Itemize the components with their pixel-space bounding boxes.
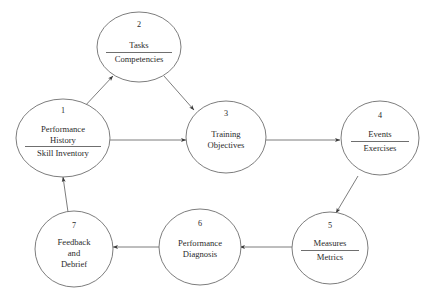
node-5-label-line-1: Measures — [314, 238, 348, 248]
node-7-index: 7 — [72, 221, 76, 230]
node-2-label-line-1: Tasks — [129, 40, 149, 50]
process-flow-diagram: 1 Performance History Skill Inventory 2 … — [0, 0, 436, 296]
node-1[interactable]: 1 Performance History Skill Inventory — [16, 99, 110, 177]
node-6-label-line-2: Diagnosis — [183, 249, 218, 259]
node-4-label-line-1: Events — [368, 129, 392, 139]
node-5[interactable]: 5 Measures Metrics — [292, 212, 368, 284]
edge-1-to-2 — [83, 76, 113, 108]
node-5-index: 5 — [328, 221, 332, 230]
node-7-label-line-3: Debrief — [61, 259, 87, 269]
node-4-label-line-2: Exercises — [364, 143, 398, 153]
node-2-label-line-2: Competencies — [115, 54, 164, 64]
edge-2-to-3 — [164, 76, 194, 110]
node-3-label-line-2: Objectives — [208, 140, 245, 150]
node-1-label-line-1: Performance — [41, 124, 85, 134]
node-2[interactable]: 2 Tasks Competencies — [97, 12, 181, 82]
node-4[interactable]: 4 Events Exercises — [341, 101, 419, 175]
node-3[interactable]: 3 Training Objectives — [186, 101, 266, 173]
edge-7-to-1 — [63, 177, 68, 212]
node-3-label-line-1: Training — [211, 129, 241, 139]
node-3-index: 3 — [224, 109, 228, 118]
node-1-label-line-3: Skill Inventory — [37, 148, 90, 158]
node-5-label-line-2: Metrics — [317, 252, 344, 262]
node-6[interactable]: 6 Performance Diagnosis — [159, 209, 241, 285]
node-7[interactable]: 7 Feedback and Debrief — [35, 211, 113, 287]
node-1-label-line-2: History — [50, 135, 76, 145]
node-2-index: 2 — [137, 20, 141, 29]
node-4-index: 4 — [378, 111, 382, 120]
node-7-label-line-1: Feedback — [58, 237, 92, 247]
node-6-label-line-1: Performance — [178, 238, 222, 248]
node-1-index: 1 — [61, 106, 65, 115]
diagram-canvas: 1 Performance History Skill Inventory 2 … — [0, 0, 436, 296]
node-7-label-line-2: and — [68, 248, 81, 258]
edge-4-to-5 — [336, 176, 358, 213]
node-6-index: 6 — [198, 219, 202, 228]
